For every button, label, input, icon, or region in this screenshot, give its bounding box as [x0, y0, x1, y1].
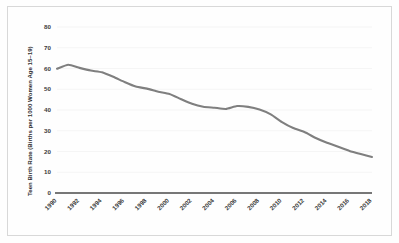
- x-tick-label: 2010: [268, 196, 283, 211]
- x-tick-label: 2006: [223, 196, 238, 211]
- x-tick-label: 2008: [246, 196, 261, 211]
- x-tick-label: 1998: [133, 196, 148, 211]
- y-tick-label: 60: [44, 65, 51, 72]
- x-tick-label: 2014: [313, 196, 328, 211]
- gridlines: [57, 27, 372, 172]
- y-tick-label: 80: [44, 23, 51, 30]
- y-tick-label: 40: [44, 106, 51, 113]
- x-tick-label: 1990: [43, 196, 58, 211]
- y-tick-label: 20: [44, 148, 51, 155]
- data-line: [57, 65, 372, 157]
- x-tick-label: 1992: [66, 196, 81, 211]
- y-tick-label: 0: [48, 189, 52, 196]
- line-chart: 01020304050607080 1990199219941996199820…: [0, 0, 399, 243]
- y-axis-ticks: 01020304050607080: [44, 23, 51, 196]
- x-tick-label: 2016: [336, 196, 351, 211]
- y-tick-label: 30: [44, 127, 51, 134]
- x-axis-ticks: 1990199219941996199820002002200420062008…: [43, 196, 373, 211]
- x-tick-label: 2000: [156, 196, 171, 211]
- x-tick-label: 2012: [291, 196, 306, 211]
- x-tick-label: 2002: [178, 196, 193, 211]
- y-axis-label-text: Teen Birth Rate (Births per 1000 Women A…: [26, 46, 33, 196]
- x-tick-label: 2004: [201, 196, 216, 211]
- y-tick-label: 70: [44, 44, 51, 51]
- y-tick-label: 50: [44, 85, 51, 92]
- x-tick-label: 1994: [88, 196, 103, 211]
- chart-container: 01020304050607080 1990199219941996199820…: [0, 0, 399, 243]
- y-tick-label: 10: [44, 168, 51, 175]
- data-series: [57, 65, 372, 157]
- x-tick-label: 1996: [111, 196, 126, 211]
- y-axis-label: Teen Birth Rate (Births per 1000 Women A…: [26, 46, 33, 196]
- x-tick-label: 2018: [358, 196, 373, 211]
